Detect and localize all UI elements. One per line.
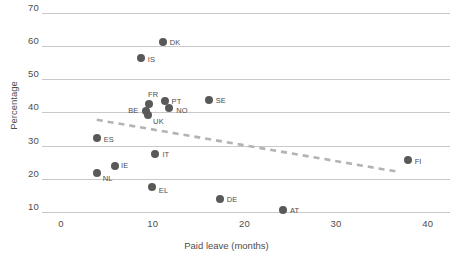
data-point[interactable] bbox=[137, 54, 145, 62]
plot-area: 10203040506070 010203040 DKISSEFRPTNOBEU… bbox=[0, 0, 453, 259]
data-point-label: NO bbox=[176, 106, 187, 115]
data-point-label: DE bbox=[227, 195, 238, 204]
data-point[interactable] bbox=[144, 111, 152, 119]
data-point-label: UK bbox=[153, 117, 164, 126]
data-point-label: ES bbox=[104, 135, 114, 144]
data-point[interactable] bbox=[159, 38, 167, 46]
data-point-label: FI bbox=[415, 157, 422, 166]
data-point[interactable] bbox=[93, 169, 101, 177]
data-point-label: IE bbox=[121, 161, 128, 170]
x-tick-label: 10 bbox=[133, 218, 173, 229]
data-point[interactable] bbox=[111, 162, 119, 170]
data-point-label: IS bbox=[148, 55, 155, 64]
data-point-label: SE bbox=[216, 96, 226, 105]
data-point-label: NL bbox=[103, 174, 113, 183]
gridline bbox=[42, 46, 450, 47]
data-point[interactable] bbox=[205, 96, 213, 104]
data-point[interactable] bbox=[151, 150, 159, 158]
y-tick-label: 70 bbox=[28, 2, 56, 13]
gridline bbox=[42, 212, 450, 213]
data-point[interactable] bbox=[279, 206, 287, 214]
gridline bbox=[42, 13, 450, 14]
data-point-label: EL bbox=[159, 186, 168, 195]
data-point[interactable] bbox=[93, 134, 101, 142]
scatter-chart: 10203040506070 010203040 DKISSEFRPTNOBEU… bbox=[0, 0, 453, 259]
x-tick-label: 40 bbox=[408, 218, 448, 229]
y-axis-title: Percentage bbox=[8, 56, 19, 156]
data-point[interactable] bbox=[216, 195, 224, 203]
data-point-label: PT bbox=[172, 97, 182, 106]
y-tick-label: 20 bbox=[28, 168, 56, 179]
x-axis-title: Paid leave (months) bbox=[0, 240, 453, 251]
gridline bbox=[42, 79, 450, 80]
x-tick-label: 30 bbox=[316, 218, 356, 229]
data-point-label: FR bbox=[148, 90, 158, 99]
gridline bbox=[42, 146, 450, 147]
x-tick-label: 20 bbox=[224, 218, 264, 229]
y-tick-label: 30 bbox=[28, 135, 56, 146]
data-point[interactable] bbox=[148, 183, 156, 191]
y-tick-label: 40 bbox=[28, 101, 56, 112]
data-point[interactable] bbox=[165, 104, 173, 112]
data-point-label: DK bbox=[170, 38, 181, 47]
data-point[interactable] bbox=[404, 156, 412, 164]
gridline bbox=[42, 112, 450, 113]
data-point-label: BE bbox=[128, 106, 138, 115]
data-point-label: AT bbox=[290, 206, 299, 215]
y-tick-label: 10 bbox=[28, 201, 56, 212]
data-point-label: IT bbox=[162, 150, 169, 159]
x-tick-label: 0 bbox=[41, 218, 81, 229]
y-tick-label: 60 bbox=[28, 35, 56, 46]
y-tick-label: 50 bbox=[28, 68, 56, 79]
